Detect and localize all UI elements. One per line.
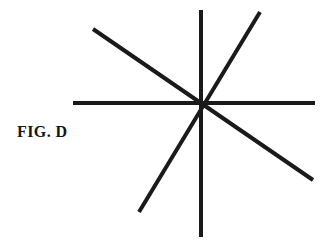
figure-caption: FIG. D xyxy=(17,122,67,142)
figure-container: FIG. D xyxy=(0,0,333,245)
